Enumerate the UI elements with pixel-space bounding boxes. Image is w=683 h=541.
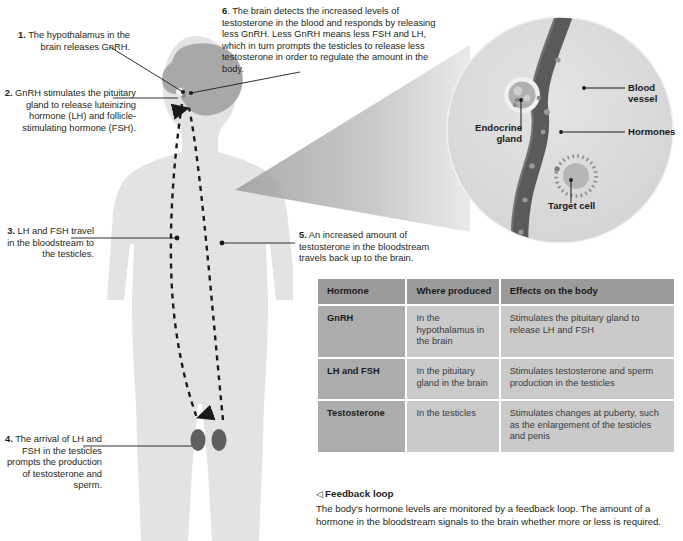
step-5-text: An increased amount of testosterone in t… (299, 230, 429, 263)
label-endocrine-gland-line2: gland (426, 133, 522, 144)
step-1-text: The hypothalamus in the brain releases G… (28, 30, 130, 52)
table-cell-where: In the testicles (407, 401, 498, 452)
table-header-row: Hormone Where produced Effects on the bo… (318, 279, 674, 304)
label-endocrine-gland-line1: Endocrine (426, 122, 522, 133)
table-cell-hormone: GnRH (318, 306, 405, 357)
table-cell-effects: Stimulates the pituitary gland to releas… (501, 306, 674, 357)
step-3-text: LH and FSH travel in the bloodstream to … (7, 226, 94, 259)
callout-step-1: 1. The hypothalamus in the brain release… (8, 30, 130, 53)
caption-title-row: ◁Feedback loop (316, 487, 676, 501)
label-blood-vessel: Blood vessel (628, 82, 683, 104)
callout-step-6: 6. The brain detects the increased level… (222, 6, 437, 76)
step-5-number: 5. (299, 230, 307, 240)
callout-step-2: 2. GnRH stimulates the pituitary gland t… (2, 88, 136, 134)
triangle-left-icon: ◁ (316, 488, 323, 501)
caption-body: The body's hormone levels are monitored … (316, 502, 676, 528)
diagram-graphics (0, 0, 683, 541)
table-row: Testosterone In the testicles Stimulates… (318, 401, 674, 452)
step-4-text: The arrival of LH and FSH in the testicl… (7, 434, 102, 490)
table-cell-effects: Stimulates changes at puberty, such as t… (501, 401, 674, 452)
table-row: LH and FSH In the pituitary gland in the… (318, 359, 674, 399)
table-header-where-produced: Where produced (407, 279, 498, 304)
step-2-text: GnRH stimulates the pituitary gland to r… (15, 88, 136, 133)
step-1-number: 1. (18, 30, 26, 40)
hormone-table: Hormone Where produced Effects on the bo… (316, 277, 676, 454)
table-cell-effects: Stimulates testosterone and sperm produc… (501, 359, 674, 399)
table-row: GnRH In the hypothalamus in the brain St… (318, 306, 674, 357)
label-hormones: Hormones (628, 126, 675, 137)
table-cell-where: In the pituitary gland in the brain (407, 359, 498, 399)
callout-step-4: 4. The arrival of LH and FSH in the test… (2, 434, 102, 492)
table-cell-hormone: Testosterone (318, 401, 405, 452)
label-target-cell: Target cell (548, 200, 595, 211)
step-3-number: 3. (7, 226, 15, 236)
table-cell-where: In the hypothalamus in the brain (407, 306, 498, 357)
step-4-number: 4. (5, 434, 13, 444)
step-2-number: 2. (5, 88, 13, 98)
table-cell-hormone: LH and FSH (318, 359, 405, 399)
diagram-page: 1. The hypothalamus in the brain release… (0, 0, 683, 541)
caption-title: Feedback loop (325, 488, 394, 499)
callout-step-5: 5. An increased amount of testosterone i… (299, 230, 449, 265)
table-header-effects: Effects on the body (501, 279, 674, 304)
label-endocrine-gland: Endocrine gland (426, 122, 522, 144)
feedback-loop-caption: ◁Feedback loop The body's hormone levels… (316, 487, 676, 529)
step-6-text: . The brain detects the increased levels… (222, 6, 435, 74)
callout-step-3: 3. LH and FSH travel in the bloodstream … (4, 226, 94, 261)
table-header-hormone: Hormone (318, 279, 405, 304)
